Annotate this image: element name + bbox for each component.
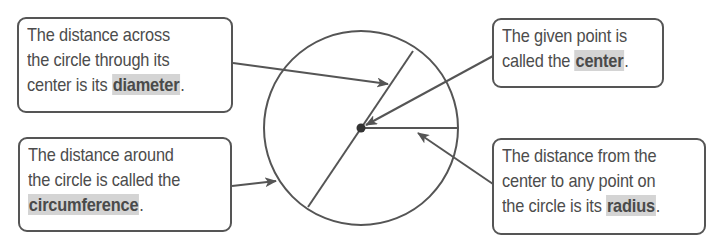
term-diameter: diameter <box>112 74 180 95</box>
callout-radius: The distance from the center to any poin… <box>492 138 706 235</box>
callout-line: the circle is called the <box>28 167 202 192</box>
callout-line: center is its diameter. <box>27 72 202 97</box>
callout-text: called the <box>502 50 575 71</box>
radius-arrow <box>418 133 493 184</box>
punctuation: . <box>139 194 143 215</box>
callout-line: the circle through its <box>27 47 202 72</box>
callout-diameter: The distance across the circle through i… <box>17 17 233 113</box>
callout-line: The given point is <box>502 23 640 48</box>
callout-line: called the center. <box>502 48 640 73</box>
center-arrow <box>366 56 493 125</box>
punctuation: . <box>180 74 184 95</box>
callout-line: The distance from the <box>502 143 676 168</box>
callout-line: the circle is its radius. <box>502 193 676 218</box>
punctuation: . <box>656 195 660 216</box>
callout-text: center is its <box>27 74 112 95</box>
callout-text: the circle is its <box>502 195 606 216</box>
callout-circumference: The distance around the circle is called… <box>18 137 232 232</box>
term-radius: radius <box>606 195 656 216</box>
circumference-arrow <box>232 181 276 186</box>
callout-line: The distance around <box>28 142 202 167</box>
center-point <box>357 124 366 133</box>
callout-center: The given point is called the center. <box>492 18 664 88</box>
punctuation: . <box>624 50 628 71</box>
diameter-arrow <box>233 63 388 84</box>
term-center: center <box>575 50 625 71</box>
callout-line: The distance across <box>27 22 202 47</box>
term-circumference: circumference <box>28 194 139 215</box>
callout-line: center to any point on <box>502 168 676 193</box>
callout-line: circumference. <box>28 192 202 217</box>
